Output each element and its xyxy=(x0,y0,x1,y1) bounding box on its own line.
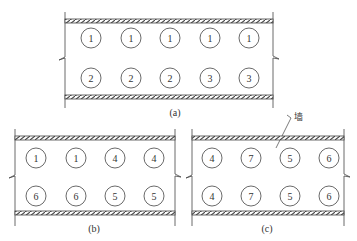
seat-number: 4 xyxy=(152,153,157,164)
seat-number: 1 xyxy=(208,33,213,44)
panel-a: 1111122233 (a) xyxy=(59,12,279,119)
panel-b: 11446655 (b) xyxy=(9,129,181,235)
wall-top xyxy=(65,19,273,23)
seat-number: 5 xyxy=(113,191,118,202)
seat-number: 1 xyxy=(247,33,252,44)
seat-number: 2 xyxy=(129,73,134,84)
seat-number: 4 xyxy=(210,191,215,202)
panel-c: 47564756 (c) xyxy=(186,129,350,235)
seat-number: 1 xyxy=(129,33,134,44)
seat-number: 3 xyxy=(208,73,213,84)
seat-number: 2 xyxy=(89,73,94,84)
panel-label-c: (c) xyxy=(261,223,272,235)
seat-number: 5 xyxy=(288,153,293,164)
panel-label-b: (b) xyxy=(88,223,100,235)
seat-number: 6 xyxy=(327,153,332,164)
seat-number: 2 xyxy=(168,73,173,84)
wall-label: 墙 xyxy=(294,111,303,122)
seat-number: 4 xyxy=(210,153,215,164)
seat-number: 5 xyxy=(288,191,293,202)
seat-number: 6 xyxy=(34,191,39,202)
panel-label-a: (a) xyxy=(169,107,180,119)
wall-bottom xyxy=(65,95,273,99)
seating-diagram: 1111122233 (a) 墙 11446655 (b) 47564756 (… xyxy=(0,0,357,241)
seat-number: 3 xyxy=(247,73,252,84)
seat-number: 1 xyxy=(74,153,79,164)
seat-number: 6 xyxy=(74,191,79,202)
seat-number: 1 xyxy=(168,33,173,44)
seat-number: 6 xyxy=(327,191,332,202)
wall-annotation: 墙 xyxy=(276,111,303,148)
seat-number: 1 xyxy=(34,153,39,164)
seat-number: 7 xyxy=(249,191,254,202)
seat-number: 4 xyxy=(113,153,118,164)
seat-number: 5 xyxy=(152,191,157,202)
seat-number: 7 xyxy=(249,153,254,164)
seat-number: 1 xyxy=(89,33,94,44)
